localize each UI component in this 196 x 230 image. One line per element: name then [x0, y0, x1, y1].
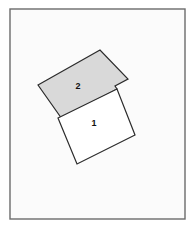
region-label-2: 2	[75, 81, 80, 91]
diagram-canvas: 2 1	[0, 0, 196, 230]
figure-container: 2 1	[0, 0, 196, 230]
region-label-1: 1	[91, 118, 96, 128]
